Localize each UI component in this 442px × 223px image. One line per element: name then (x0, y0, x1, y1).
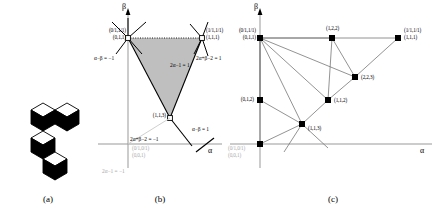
vertex-marker-top-left (126, 36, 131, 41)
panel-b-eq-two-alpha-plus-beta-minus-two-eq-one: 2α+β−2 = 1 (196, 55, 221, 61)
node-marker-012 (257, 97, 263, 103)
panel-c-edges (260, 38, 398, 152)
node-marker-112 (325, 97, 331, 103)
panel-c-beta-axis-label: β (254, 2, 258, 11)
panel-c-node-113-triple: (1,1,3) (308, 126, 321, 132)
panel-b-alpha-axis-label: α (208, 146, 212, 155)
panel-c-alpha-axis-label: α (420, 146, 424, 155)
panel-a: (a) (0, 0, 96, 223)
node-marker-001 (257, 141, 263, 147)
panel-c-caption: (c) (224, 194, 442, 204)
panel-c-node-012-triple: (0,1,2) (224, 97, 254, 103)
panel-b-eq-two-alpha-plus-beta-minus-two-eq-neg-one: 2α+β−2 = −1 (130, 136, 159, 142)
panel-b-eq-two-alpha-minus-one-eq-neg-one: 2α−1 = −1 (102, 168, 125, 174)
panel-c-node-111-triple: (1,1,1) (404, 35, 417, 41)
panel-b-vertex-bottom-triple: (1,1,3) (134, 113, 166, 119)
beta-axis-arrow (126, 8, 131, 15)
lozenge-tiling-group (31, 103, 79, 180)
panel-c-node-122-triple: (1,2,2) (326, 26, 339, 32)
panel-b-eq-alpha-minus-beta-eq-one: α−β = 1 (192, 126, 209, 132)
figure-root: (a) (0, 0, 442, 223)
node-marker-111 (395, 35, 401, 41)
panel-b: β α (0/1,1/1) (0,1,1) (1/1,1/1) (1,1,1) … (96, 0, 224, 223)
panel-c: β α (0/1,1/1) (0,1,1) (1,2,2) (1/1,1/1) … (224, 0, 442, 223)
vertex-marker-top-right (200, 36, 205, 41)
lozenge-tiling-svg (0, 0, 96, 223)
panel-c-node-112-triple: (1,1,2) (334, 98, 347, 104)
panel-c-nodes (257, 35, 401, 147)
node-marker-223 (352, 74, 358, 80)
node-marker-122 (329, 35, 335, 41)
panel-c-node-223-triple: (2,2,3) (361, 75, 374, 81)
panel-c-beta-axis-arrow (258, 8, 263, 15)
panel-b-vertex-top-left-triple: (0,1,1) (92, 35, 126, 41)
panel-b-eq-two-alpha-minus-one-eq-one: 2α−1 = 1 (170, 62, 190, 68)
panel-b-vertex-top-right-triple: (1,1,1) (206, 35, 219, 41)
panel-b-beta-axis-label: β (122, 2, 126, 11)
panel-b-eq-alpha-minus-beta-neg-one: α−β = −1 (94, 55, 114, 61)
panel-b-caption: (b) (96, 194, 224, 204)
panel-c-node-001-triple: (0,0,1) (228, 153, 241, 159)
node-marker-011 (257, 35, 263, 41)
region-right-edge-extension (170, 118, 192, 146)
node-marker-113 (299, 121, 305, 127)
panel-b-origin-triple: (0,0,1) (132, 153, 145, 159)
panel-c-node-011-triple: (0,1,1) (222, 35, 256, 41)
panel-a-caption: (a) (0, 194, 96, 204)
